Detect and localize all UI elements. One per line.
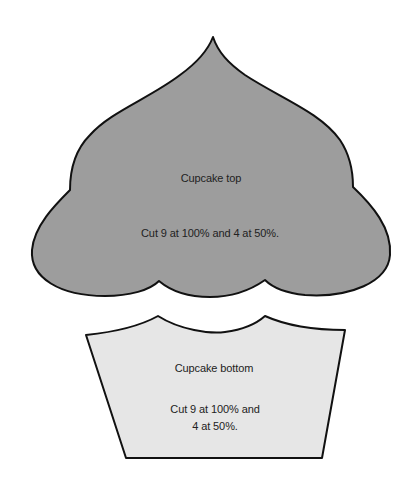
cupcake-bottom-title: Cupcake bottom bbox=[0, 362, 414, 374]
cupcake-bottom-instruction-line1: Cut 9 at 100% and bbox=[0, 403, 414, 415]
cupcake-top-title: Cupcake top bbox=[0, 172, 414, 184]
cupcake-bottom-instruction-line2: 4 at 50%. bbox=[0, 420, 414, 432]
cupcake-top-instruction: Cut 9 at 100% and 4 at 50%. bbox=[0, 227, 414, 239]
cupcake-bottom-shape bbox=[86, 316, 345, 458]
cupcake-top-shape bbox=[32, 37, 390, 297]
